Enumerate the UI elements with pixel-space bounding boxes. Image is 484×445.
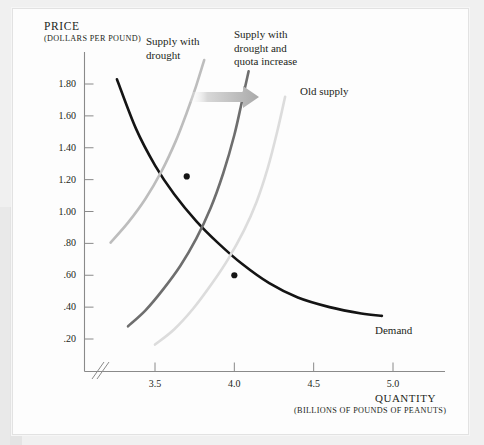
x-axis-ticks xyxy=(155,363,393,372)
y-tick-label: .60 xyxy=(42,269,76,280)
x-tick-label: 4.5 xyxy=(297,378,331,389)
figure-page: .20.40.60.801.001.201.401.601.80 3.54.04… xyxy=(0,0,484,445)
x-axis-title: QUANTITY xyxy=(375,392,436,404)
equilibrium-markers xyxy=(184,173,238,278)
label-supply-with-drought: Supply with drought xyxy=(146,35,199,62)
marker-equilibrium-old-supply xyxy=(231,272,237,278)
y-tick-label: 1.60 xyxy=(42,110,76,121)
label-supply-with-drought-and-quota: Supply with drought and quota increase xyxy=(234,28,297,69)
y-tick-label: 1.00 xyxy=(42,206,76,217)
x-tick-label: 3.5 xyxy=(138,378,172,389)
curve-old-supply xyxy=(155,97,285,345)
y-axis-subtitle: (DOLLARS PER POUND) xyxy=(44,34,141,43)
y-tick-label: .80 xyxy=(42,237,76,248)
y-tick-label: 1.40 xyxy=(42,142,76,153)
y-tick-label: 1.80 xyxy=(42,78,76,89)
y-axis-ticks xyxy=(85,84,94,339)
label-supply-quota-line1: Supply with xyxy=(234,28,297,42)
label-supply-with-drought-line2: drought xyxy=(146,49,199,63)
label-supply-quota-line3: quota increase xyxy=(234,55,297,69)
label-old-supply: Old supply xyxy=(300,85,349,99)
x-axis-subtitle: (BILLIONS OF POUNDS OF PEANUTS) xyxy=(294,406,446,415)
label-supply-with-drought-line1: Supply with xyxy=(146,35,199,49)
x-tick-label: 5.0 xyxy=(376,378,410,389)
curve-demand xyxy=(117,79,382,316)
label-supply-quota-line2: drought and xyxy=(234,42,297,56)
x-tick-label: 4.0 xyxy=(217,378,251,389)
marker-equilibrium-drought-quota xyxy=(184,173,190,179)
y-tick-label: .40 xyxy=(42,301,76,312)
y-tick-label: .20 xyxy=(42,333,76,344)
y-axis-title: PRICE xyxy=(44,20,80,32)
shift-arrow-icon xyxy=(190,86,259,108)
label-demand: Demand xyxy=(375,324,412,338)
y-tick-label: 1.20 xyxy=(42,174,76,185)
